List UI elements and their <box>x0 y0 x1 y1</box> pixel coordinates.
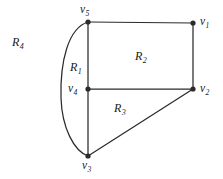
vertex-dot-v2 <box>190 86 195 91</box>
vertex-label-v5-subscript: 5 <box>85 9 89 18</box>
vertex-label-v1-subscript: 1 <box>205 21 209 30</box>
vertex-dot-v5 <box>85 19 90 24</box>
vertex-dot-v4 <box>85 86 90 91</box>
region-label-r2-base: R <box>135 49 142 63</box>
graph-drawing <box>0 0 223 179</box>
vertex-label-v4: v4 <box>68 83 77 95</box>
region-label-r3: R3 <box>114 102 125 114</box>
vertex-label-v2: v2 <box>200 83 209 95</box>
vertex-label-v1: v1 <box>200 16 209 28</box>
vertex-dot-v3 <box>85 153 90 158</box>
region-label-r1: R1 <box>70 61 81 73</box>
vertex-dot-v1 <box>190 20 195 25</box>
vertex-label-v5: v5 <box>80 4 89 16</box>
region-label-r3-base: R <box>114 101 121 115</box>
region-label-r4-base: R <box>12 35 19 49</box>
figure-canvas: v5 v1 v2 v4 v3 R1 R2 R3 R4 <box>0 0 223 179</box>
region-label-r1-base: R <box>70 60 77 74</box>
region-label-r1-subscript: 1 <box>78 67 82 76</box>
edge-v3-v2 <box>88 89 193 156</box>
region-label-r3-subscript: 3 <box>122 108 126 117</box>
vertex-label-v3: v3 <box>82 160 91 172</box>
vertex-label-v3-subscript: 3 <box>87 165 91 174</box>
region-label-r4: R4 <box>12 36 23 48</box>
vertex-label-v4-subscript: 4 <box>73 88 77 97</box>
vertex-label-v2-subscript: 2 <box>205 88 209 97</box>
edge-v5-v1 <box>88 22 193 23</box>
region-label-r2-subscript: 2 <box>143 56 147 65</box>
region-label-r4-subscript: 4 <box>20 42 24 51</box>
region-label-r2: R2 <box>135 50 146 62</box>
